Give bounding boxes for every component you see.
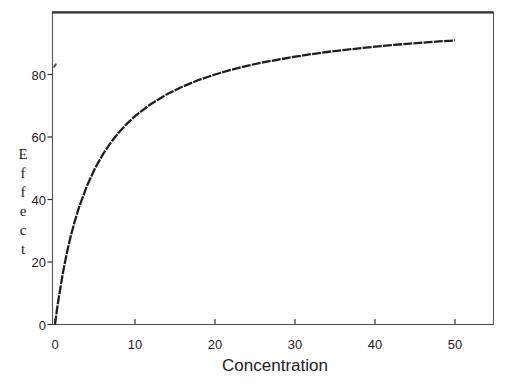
x-tick-label-40: 40 (360, 337, 390, 352)
y-tick-label-80: 80 (20, 69, 46, 83)
y-tick-label-60: 60 (20, 131, 46, 145)
x-axis-title: Concentration (205, 356, 345, 376)
x-tick-label-0: 0 (40, 337, 70, 352)
y-tick-label-0: 0 (20, 319, 46, 333)
x-tick-label-50: 50 (440, 337, 470, 352)
plot-svg (0, 0, 506, 389)
chart-figure: 80 60 40 20 0 0 10 20 30 40 50 Effect Co… (0, 0, 506, 389)
plot-frame (53, 13, 494, 325)
x-tick-label-30: 30 (280, 337, 310, 352)
x-tick-label-20: 20 (200, 337, 230, 352)
y-axis-title: Effect (11, 146, 31, 260)
effect-curve (55, 40, 455, 324)
x-tick-label-10: 10 (120, 337, 150, 352)
